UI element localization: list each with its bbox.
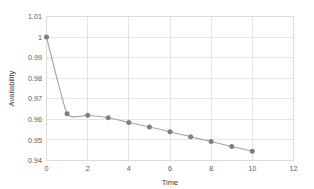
x-tick-label: 8 xyxy=(209,164,213,173)
y-tick-label: 0.94 xyxy=(28,156,42,165)
x-tick-label: 6 xyxy=(168,164,172,173)
y-tick-label: 0.99 xyxy=(28,53,42,62)
x-tick-label: 0 xyxy=(45,164,49,173)
y-tick-label: 0.95 xyxy=(28,136,42,145)
data-point-marker xyxy=(209,139,214,144)
x-tick-label: 10 xyxy=(248,164,256,173)
chart-canvas: 0.940.950.960.970.980.9911.01 024681012 … xyxy=(0,0,314,189)
x-tick-label: 12 xyxy=(290,164,298,173)
data-point-marker xyxy=(188,134,193,139)
data-point-marker xyxy=(147,124,152,129)
y-tick-label: 0.97 xyxy=(28,94,42,103)
data-point-marker xyxy=(106,115,111,120)
y-tick-label: 0.96 xyxy=(28,115,42,124)
data-point-marker xyxy=(126,120,131,125)
data-point-marker xyxy=(250,149,255,154)
data-point-marker xyxy=(168,129,173,134)
availability-vs-time-chart: 0.940.950.960.970.980.9911.01 024681012 … xyxy=(0,0,314,189)
data-point-marker xyxy=(85,113,90,118)
y-axis-title: Availability xyxy=(7,70,16,106)
x-tick-label: 2 xyxy=(86,164,90,173)
data-point-marker xyxy=(65,111,70,116)
x-tick-label: 4 xyxy=(127,164,131,173)
data-point-marker xyxy=(44,35,49,40)
x-axis-title: Time xyxy=(162,178,179,187)
y-tick-label: 1.01 xyxy=(28,12,42,21)
y-tick-label: 0.98 xyxy=(28,74,42,83)
data-point-marker xyxy=(229,144,234,149)
y-tick-label: 1 xyxy=(38,33,42,42)
